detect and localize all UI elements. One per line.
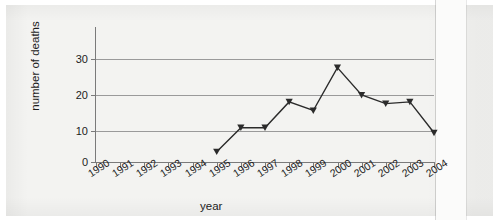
- line-chart-plot-area: 0 10 20 30 1990 1991 1992 1993 1994 1995…: [0, 0, 499, 220]
- data-point-1999: [310, 107, 317, 113]
- data-point-1995: [213, 149, 220, 155]
- data-point-2004: [430, 130, 437, 136]
- series-line-number-of-deaths: [217, 68, 434, 152]
- data-series-svg: [0, 0, 499, 220]
- series-markers: [213, 65, 437, 156]
- chart-page: 0 10 20 30 1990 1991 1992 1993 1994 1995…: [0, 0, 499, 220]
